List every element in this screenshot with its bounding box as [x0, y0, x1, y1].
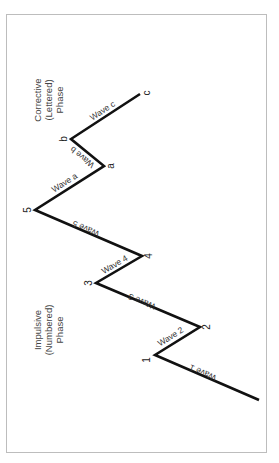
point-label-1: 1	[141, 357, 152, 363]
elliott-wave-diagram: 1 2 3 4 5 a b c Wave 1 Wave 2 Wave 3 Wav…	[0, 0, 279, 463]
impulsive-phase-label: Impulsive (Numbered) Phase	[32, 305, 65, 356]
impulsive-line-2: (Numbered)	[43, 305, 54, 356]
point-label-2: 2	[201, 324, 212, 330]
point-label-3: 3	[83, 280, 94, 286]
point-label-c: c	[141, 91, 152, 96]
wave-label-3: Wave 3	[127, 292, 157, 312]
wave-label-1: Wave 1	[188, 362, 218, 383]
point-label-5: 5	[22, 207, 33, 213]
point-label-a: a	[105, 163, 116, 169]
corrective-line-2: (Lettered)	[43, 79, 54, 120]
point-label-b: b	[58, 136, 69, 142]
impulsive-line-1: Impulsive	[32, 310, 43, 350]
corrective-phase-label: Corrective (Lettered) Phase	[32, 78, 65, 121]
impulsive-line-3: Phase	[54, 317, 65, 344]
point-label-4: 4	[143, 253, 154, 259]
corrective-line-3: Phase	[54, 87, 65, 114]
wave-label-5: Wave 5	[71, 218, 101, 239]
corrective-line-1: Corrective	[32, 78, 43, 121]
